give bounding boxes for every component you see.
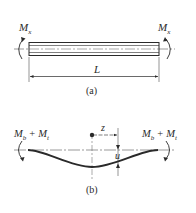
u-bottom-arrow-icon: [116, 164, 120, 169]
caption-a: (a): [86, 85, 97, 97]
right-combined-moment-arrow-icon: [164, 141, 170, 162]
left-combined-moment-label: Mb+Mt: [13, 128, 50, 142]
u-label: u: [115, 150, 120, 161]
beam-buckling-figure: Mx Mx L (a): [0, 0, 196, 213]
right-combined-moment-label: Mb+Mt: [141, 128, 178, 142]
buckled-beam-curve: [28, 150, 158, 167]
left-combined-moment-arrow-icon: [19, 141, 25, 162]
z-label: z: [100, 122, 105, 133]
caption-b: (b): [86, 184, 98, 196]
u-top-arrow-icon: [116, 145, 120, 150]
right-moment-arrow-icon: [163, 37, 170, 59]
part-a: Mx Mx L (a): [14, 21, 175, 97]
length-label: L: [93, 63, 100, 75]
right-moment-label: Mx: [157, 21, 171, 36]
part-b: z u Mb+Mt Mb+Mt (b): [13, 122, 178, 196]
left-moment-label: Mx: [18, 21, 32, 36]
left-moment-arrow-icon: [19, 37, 26, 59]
straight-beam: [29, 43, 159, 56]
